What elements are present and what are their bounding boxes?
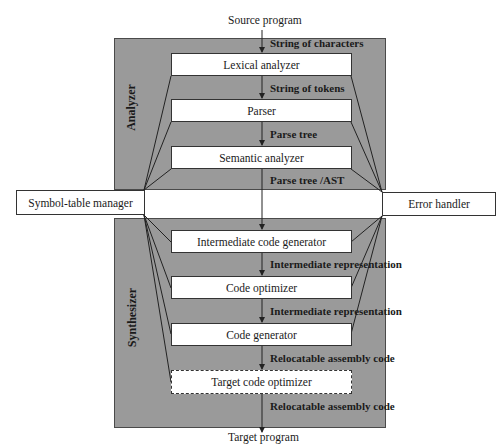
target-code-optimizer-label: Target code optimizer [211, 376, 312, 388]
intermediate-code-generator-label: Intermediate code generator [197, 236, 326, 248]
symbol-table-manager-label: Symbol-table manager [28, 197, 132, 209]
target-code-optimizer-box: Target code optimizer [171, 370, 352, 394]
semantic-analyzer-label: Semantic analyzer [219, 152, 304, 164]
edge-label-string-of-characters: String of characters [270, 37, 363, 49]
parser-box: Parser [171, 99, 352, 122]
synthesizer-label: Synthesizer [125, 280, 140, 356]
parser-label: Parser [247, 105, 276, 117]
code-generator-label: Code generator [226, 329, 297, 341]
error-handler-label: Error handler [408, 198, 470, 210]
symbol-table-manager-box: Symbol-table manager [16, 190, 145, 215]
intermediate-code-generator-box: Intermediate code generator [171, 230, 352, 253]
code-optimizer-label: Code optimizer [226, 282, 297, 294]
edge-label-intermediate-representation-1: Intermediate representation [270, 258, 402, 270]
target-program-label: Target program [228, 431, 299, 443]
edge-label-parse-tree-ast: Parse tree /AST [270, 174, 344, 186]
edge-label-parse-tree: Parse tree [270, 128, 317, 140]
edge-label-intermediate-representation-2: Intermediate representation [270, 305, 402, 317]
error-handler-box: Error handler [382, 192, 496, 216]
code-generator-box: Code generator [171, 323, 352, 346]
source-program-label: Source program [228, 14, 302, 26]
edge-label-string-of-tokens: String of tokens [270, 82, 345, 94]
code-optimizer-box: Code optimizer [171, 276, 352, 299]
edge-label-relocatable-assembly-code-1: Relocatable assembly code [270, 352, 395, 364]
semantic-analyzer-box: Semantic analyzer [171, 146, 352, 169]
lexical-analyzer-box: Lexical analyzer [171, 53, 352, 76]
analyzer-label: Analyzer [124, 78, 139, 138]
edge-label-relocatable-assembly-code-2: Relocatable assembly code [270, 400, 395, 412]
lexical-analyzer-label: Lexical analyzer [223, 59, 299, 71]
